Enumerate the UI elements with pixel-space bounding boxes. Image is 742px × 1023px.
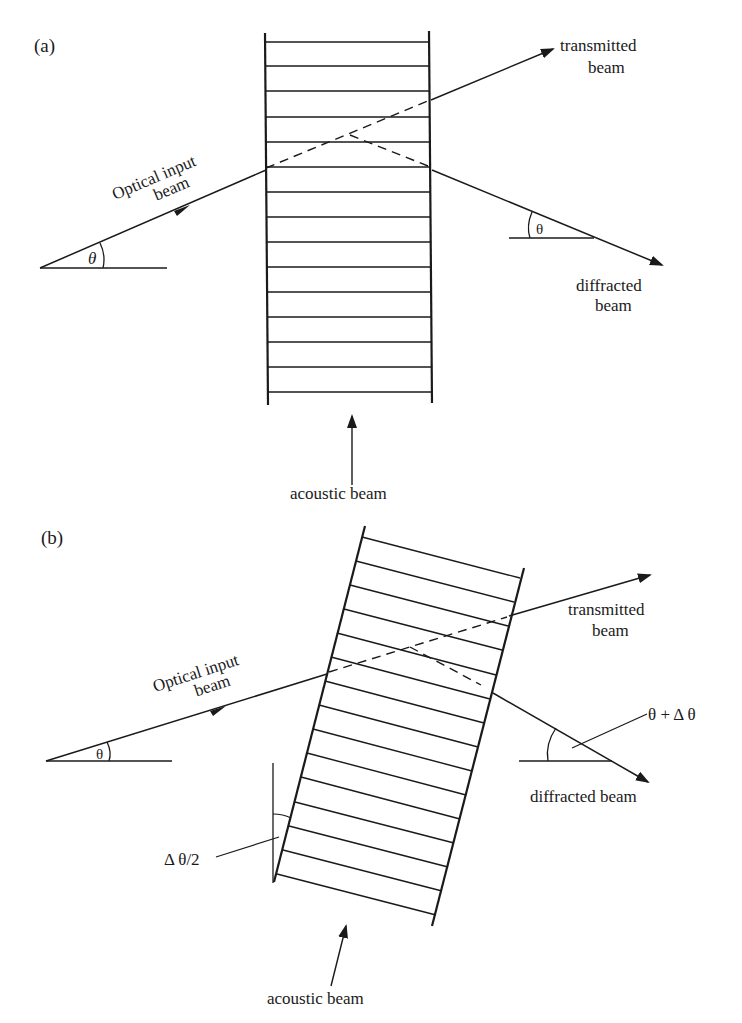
panel-b: (b): [41, 526, 696, 1008]
svg-text:beam: beam: [595, 296, 632, 315]
panel-a: (a): [34, 31, 662, 503]
svg-text:θ: θ: [88, 249, 96, 268]
panel-a-label: (a): [34, 35, 55, 57]
acoustic-wavefronts-a: [266, 42, 431, 392]
svg-text:θ: θ: [96, 746, 103, 762]
crystal-a: [265, 31, 432, 405]
svg-text:Δ θ/2: Δ θ/2: [164, 850, 200, 869]
transmitted-beam-a: transmitted beam: [431, 36, 637, 100]
svg-text:θ: θ: [536, 221, 543, 237]
svg-text:diffracted beam: diffracted beam: [530, 787, 637, 806]
transmitted-beam-b: transmitted beam: [509, 575, 650, 640]
crystal-b: [274, 526, 524, 926]
svg-text:transmitted: transmitted: [560, 36, 637, 55]
angle-arc-icon: [107, 742, 110, 761]
diffracted-beam-a: θ diffracted beam: [432, 170, 662, 315]
diffracted-beam-b: θ + Δ θ diffracted beam: [493, 693, 696, 806]
internal-paths-b: [329, 617, 507, 685]
angle-arc-icon: [100, 243, 104, 268]
svg-text:diffracted: diffracted: [576, 276, 642, 295]
acoustic-beam-b: acoustic beam: [267, 926, 364, 1008]
angle-arc-icon: [547, 728, 556, 761]
angle-arc-icon: [273, 814, 291, 818]
internal-paths-a: [266, 100, 430, 168]
svg-text:acoustic beam: acoustic beam: [267, 989, 364, 1008]
acoustic-beam-a: acoustic beam: [290, 416, 387, 503]
svg-text:acoustic beam: acoustic beam: [290, 484, 387, 503]
svg-text:θ + Δ θ: θ + Δ θ: [648, 705, 696, 724]
svg-text:transmitted: transmitted: [568, 600, 645, 619]
optical-input-beam-a: θ Optical input beam: [40, 151, 266, 268]
angle-arc-icon: [528, 212, 532, 238]
acousto-optic-diagram: (a): [0, 0, 742, 1023]
optical-input-beam-b: θ Optical input beam: [46, 650, 327, 762]
svg-text:beam: beam: [592, 621, 629, 640]
panel-b-label: (b): [41, 527, 63, 549]
svg-text:beam: beam: [588, 58, 625, 77]
tilt-angle-b: Δ θ/2: [164, 763, 291, 883]
